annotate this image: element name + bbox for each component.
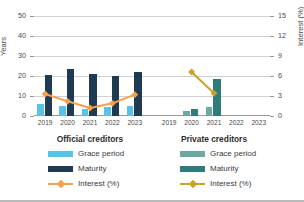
panel-private-creditors: 20192020202120222023 Private creditors: [158, 6, 270, 116]
x-tick-label: 2021: [203, 118, 225, 127]
plot-area: 20192020202120222023 Official creditors …: [34, 6, 270, 116]
legend-swatch-interest-official: [48, 180, 73, 188]
x-tick-label: 2020: [180, 118, 202, 127]
legend-swatch-interest-private: [180, 180, 205, 188]
right-tick-label: 9: [278, 52, 300, 59]
legend-label-maturity-official: Maturity: [78, 164, 106, 173]
panel-official-creditors: 20192020202120222023 Official creditors: [34, 6, 146, 116]
interest-marker-icon: [131, 91, 138, 98]
legend-label-interest-private: Interest (%): [210, 179, 251, 188]
left-tick-label: 40: [4, 32, 26, 39]
legend-item-interest-official: Interest (%): [48, 176, 124, 191]
right-tick-label: 6: [278, 72, 300, 79]
interest-marker-icon: [109, 100, 116, 107]
left-tick-label: 30: [4, 52, 26, 59]
left-tick-label: 20: [4, 72, 26, 79]
x-tick-label: 2022: [101, 118, 123, 127]
panel-title-official: Official creditors: [34, 134, 146, 144]
legend-marker-icon: [56, 179, 64, 187]
right-tick-label: 3: [278, 92, 300, 99]
legend-official: Grace period Maturity Interest (%): [48, 146, 124, 191]
panel-title-private: Private creditors: [158, 134, 270, 144]
x-tick-label: 2019: [34, 118, 56, 127]
x-tick-label: 2021: [79, 118, 101, 127]
right-tick-label: 15: [278, 12, 300, 19]
tick-mark: [270, 116, 274, 117]
legend-swatch-grace-private: [180, 151, 205, 157]
right-tick-label: 0: [278, 112, 300, 119]
legend-label-maturity-private: Maturity: [210, 164, 238, 173]
interest-line-private: [158, 6, 270, 116]
tick-mark: [270, 36, 274, 37]
legend-swatch-maturity-official: [48, 166, 73, 172]
tick-mark: [270, 76, 274, 77]
legend-label-grace-official: Grace period: [78, 149, 124, 158]
legend-item-maturity-official: Maturity: [48, 161, 124, 176]
x-tick-label: 2023: [124, 118, 146, 127]
interest-marker-icon: [42, 91, 49, 98]
x-tick-labels-official: 20192020202120222023: [34, 118, 146, 128]
x-tick-label: 2020: [56, 118, 78, 127]
legend-swatch-grace-official: [48, 151, 73, 157]
legend-item-maturity-private: Maturity: [180, 161, 256, 176]
interest-marker-icon: [64, 98, 71, 105]
legend-private: Grace period Maturity Interest (%): [180, 146, 256, 191]
x-tick-label: 2019: [158, 118, 180, 127]
interest-polyline: [192, 72, 214, 93]
legend-label-grace-private: Grace period: [210, 149, 256, 158]
legend-marker-icon: [188, 179, 196, 187]
legend-item-grace-private: Grace period: [180, 146, 256, 161]
left-tick-label: 50: [4, 12, 26, 19]
legend-swatch-maturity-private: [180, 166, 205, 172]
legend-item-grace-official: Grace period: [48, 146, 124, 161]
right-tick-label: 12: [278, 32, 300, 39]
tick-mark: [270, 16, 274, 17]
chart-figure: Years Interest (%) 01020304050 03691215 …: [0, 0, 304, 202]
left-tick-label: 10: [4, 92, 26, 99]
tick-mark: [270, 56, 274, 57]
tick-mark: [270, 96, 274, 97]
x-tick-labels-private: 20192020202120222023: [158, 118, 270, 128]
legend-label-interest-official: Interest (%): [78, 179, 119, 188]
bottom-divider: [0, 200, 304, 202]
left-tick-label: 0: [4, 112, 26, 119]
tick-mark: [30, 116, 34, 117]
x-tick-label: 2023: [248, 118, 270, 127]
interest-line-official: [34, 6, 146, 116]
x-tick-label: 2022: [225, 118, 247, 127]
legend-item-interest-private: Interest (%): [180, 176, 256, 191]
interest-marker-icon: [87, 105, 94, 112]
